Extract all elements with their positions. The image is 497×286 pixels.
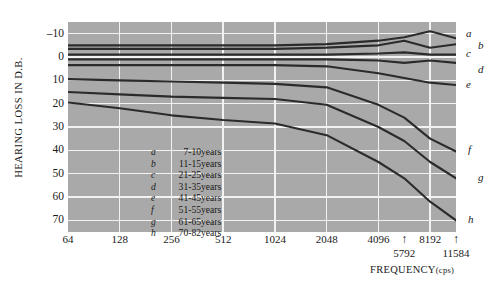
legend-unit: years xyxy=(201,204,221,216)
curve-end-label-d: d xyxy=(478,64,484,75)
x-tick-arrow-icon: ↑ xyxy=(453,233,459,245)
y-tick-label: 70 xyxy=(30,214,64,226)
plot-area: a7-10yearsb11-15yearsc21-25yearsd31-35ye… xyxy=(68,22,456,232)
x-tick-label: 128 xyxy=(111,234,128,245)
legend-row: d31-35years xyxy=(151,181,221,193)
legend-row: f51-55years xyxy=(151,204,221,216)
legend-unit: years xyxy=(201,169,221,181)
legend: a7-10yearsb11-15yearsc21-25yearsd31-35ye… xyxy=(151,146,221,239)
legend-range: 51-55 xyxy=(168,204,201,216)
legend-row: b11-15years xyxy=(151,158,221,170)
y-tick-label: 0 xyxy=(30,51,64,63)
legend-range: 11-15 xyxy=(168,158,201,170)
curve-e xyxy=(68,65,456,85)
legend-row: e41-45years xyxy=(151,192,221,204)
curve-end-label-h: h xyxy=(468,214,474,225)
curve-f xyxy=(68,79,456,151)
x-tick-label-secondary: 11584 xyxy=(442,248,469,259)
curve-c xyxy=(68,52,456,54)
curve-end-label-c: c xyxy=(466,48,471,59)
legend-unit: years xyxy=(201,158,221,170)
legend-key: e xyxy=(151,192,168,204)
legend-unit: years xyxy=(201,216,221,228)
curve-h xyxy=(68,103,456,221)
x-axis-title-text: FREQUENCY xyxy=(370,264,436,275)
legend-table: a7-10yearsb11-15yearsc21-25yearsd31-35ye… xyxy=(151,146,221,239)
curve-g xyxy=(68,92,456,178)
y-tick-label: 30 xyxy=(30,121,64,133)
legend-key: f xyxy=(151,204,168,216)
hearing-loss-chart: HEARING LOSS IN D.B. –10010203040506070 … xyxy=(0,0,497,286)
x-tick-arrow-icon: ↑ xyxy=(401,233,407,245)
curve-d xyxy=(68,59,456,63)
legend-range: 7-10 xyxy=(168,146,201,158)
y-tick-label: 20 xyxy=(30,98,64,110)
x-axis-tick-labels: 641282565121024204840968192 xyxy=(0,234,497,250)
curve-end-label-g: g xyxy=(478,172,484,183)
curve-end-label-b: b xyxy=(478,40,484,51)
x-tick-label: 512 xyxy=(215,234,232,245)
y-tick-label: 40 xyxy=(30,144,64,156)
legend-unit: years xyxy=(201,181,221,193)
legend-key: a xyxy=(151,146,168,158)
y-tick-label: 50 xyxy=(30,168,64,180)
x-axis-unit: (cps) xyxy=(436,265,455,275)
legend-key: b xyxy=(151,158,168,170)
legend-range: 31-35 xyxy=(168,181,201,193)
x-tick-label: 1024 xyxy=(264,234,286,245)
y-tick-label: 60 xyxy=(30,191,64,203)
curve-layer xyxy=(68,22,456,232)
legend-unit: years xyxy=(201,146,221,158)
curve-end-label-a: a xyxy=(466,28,472,39)
legend-row: g61-65years xyxy=(151,216,221,228)
y-tick-label: 10 xyxy=(30,74,64,86)
curve-a xyxy=(68,31,456,45)
legend-key: d xyxy=(151,181,168,193)
x-tick-label: 8192 xyxy=(419,234,441,245)
legend-unit: years xyxy=(201,192,221,204)
curve-end-label-e: e xyxy=(466,79,471,90)
legend-row: c21-25years xyxy=(151,169,221,181)
legend-key: c xyxy=(151,169,168,181)
legend-range: 21-25 xyxy=(168,169,201,181)
legend-range: 41-45 xyxy=(168,192,201,204)
x-tick-label: 256 xyxy=(163,234,180,245)
y-axis-title: HEARING LOSS IN D.B. xyxy=(13,13,24,223)
x-axis-title: FREQUENCY(cps) xyxy=(370,264,454,275)
x-tick-label: 2048 xyxy=(316,234,338,245)
x-tick-label: 64 xyxy=(63,234,74,245)
x-tick-label: 4096 xyxy=(367,234,389,245)
legend-range: 61-65 xyxy=(168,216,201,228)
curve-end-label-f: f xyxy=(468,144,471,155)
y-tick-label: –10 xyxy=(30,28,64,40)
x-tick-label-secondary: 5792 xyxy=(393,248,415,259)
legend-key: g xyxy=(151,216,168,228)
legend-row: a7-10years xyxy=(151,146,221,158)
